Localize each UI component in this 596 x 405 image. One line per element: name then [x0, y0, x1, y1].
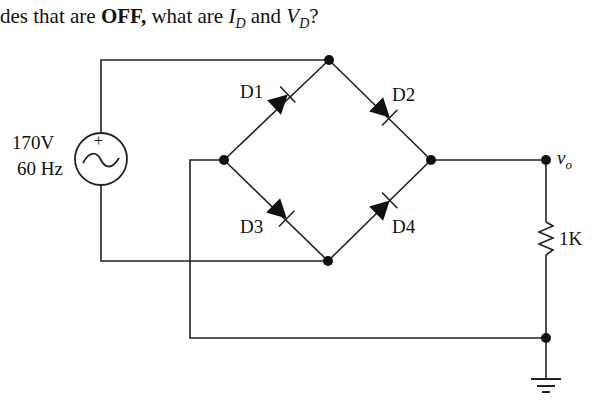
output-label: vo [557, 147, 572, 172]
ac-source: + [75, 132, 127, 185]
d2-label: D2 [392, 84, 415, 105]
diode-d3 [265, 197, 294, 226]
diode-d1 [266, 87, 295, 116]
resistor-label: 1K [559, 228, 583, 249]
wires [101, 60, 546, 378]
d3-label: D3 [240, 216, 263, 237]
junction-nodes [219, 55, 551, 343]
resistor-icon [539, 222, 553, 255]
ground-icon [531, 379, 561, 392]
plus-icon: + [94, 132, 103, 149]
bridge-rectifier-schematic: + 170V 60 Hz D1 D2 D3 D4 vo 1K [0, 0, 596, 405]
source-voltage: 170V [12, 132, 55, 153]
d1-label: D1 [240, 81, 263, 102]
source-frequency: 60 Hz [17, 158, 63, 179]
d4-label: D4 [392, 216, 416, 237]
